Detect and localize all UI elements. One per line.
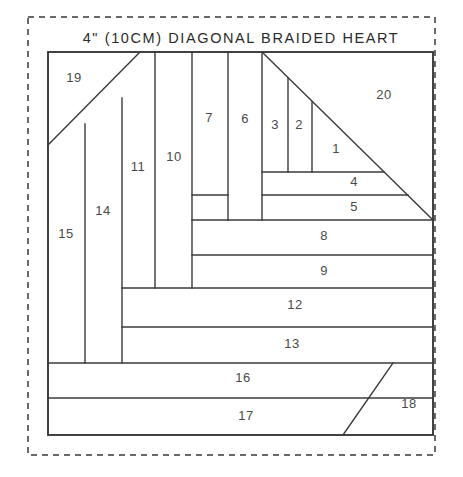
piece-19-label: 19 [66, 70, 81, 85]
piece-9-label: 9 [320, 263, 328, 278]
quilt-block-diagram: 4" (10CM) DIAGONAL BRAIDED HEART 1234567… [0, 0, 463, 477]
piece-3-label: 3 [271, 117, 279, 132]
page-title: 4" (10CM) DIAGONAL BRAIDED HEART [83, 30, 400, 46]
piece-13-label: 13 [284, 336, 299, 351]
piece-15-label: 15 [58, 226, 73, 241]
piece-16-label: 16 [235, 370, 250, 385]
piece-11-label: 11 [131, 159, 146, 174]
piece-20-label: 20 [376, 87, 391, 102]
piece-8-label: 8 [320, 228, 328, 243]
piece-5-label: 5 [350, 199, 358, 214]
piece-18-label: 18 [401, 396, 416, 411]
piece-7-label: 7 [205, 110, 213, 125]
piece-12-label: 12 [287, 297, 302, 312]
piece-1-label: 1 [332, 141, 340, 156]
piece-14-label: 14 [95, 203, 110, 218]
piece-17-label: 17 [238, 408, 253, 423]
piece-6-label: 6 [241, 111, 249, 126]
piece-2-label: 2 [295, 117, 303, 132]
pattern-page: 4" (10CM) DIAGONAL BRAIDED HEART 1234567… [0, 0, 463, 477]
piece-10-label: 10 [166, 149, 181, 164]
piece-4-label: 4 [350, 174, 358, 189]
